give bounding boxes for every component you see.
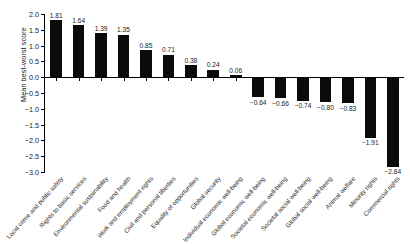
y-tick-mark: [41, 156, 45, 157]
y-tick-mark: [41, 46, 45, 47]
y-tick-mark: [41, 109, 45, 110]
bar-value-label: 0.71: [150, 46, 186, 53]
y-tick-label: −2.0: [13, 136, 39, 145]
y-tick-mark: [41, 61, 45, 62]
bar-value-label: 0.06: [218, 67, 254, 74]
x-tick-mark: [79, 78, 80, 81]
x-tick-mark: [393, 78, 394, 81]
bar: [73, 25, 85, 77]
plot-area: 1.811.641.391.350.850.710.380.240.06−0.6…: [45, 14, 404, 172]
y-tick-label: 1.5: [13, 26, 39, 35]
bar-value-label: 1.35: [106, 26, 142, 33]
x-tick-mark: [303, 78, 304, 81]
x-tick-mark: [281, 78, 282, 81]
x-tick-mark: [101, 78, 102, 81]
x-tick-mark: [213, 78, 214, 81]
y-tick-mark: [41, 140, 45, 141]
bar: [50, 20, 62, 77]
y-tick-label: −3.0: [13, 168, 39, 177]
y-tick-mark: [41, 93, 45, 94]
bar: [387, 77, 399, 167]
x-tick-mark: [191, 78, 192, 81]
x-tick-mark: [236, 78, 237, 81]
y-tick-label: 0.0: [13, 73, 39, 82]
y-tick-mark: [41, 30, 45, 31]
y-tick-label: −0.5: [13, 89, 39, 98]
bar: [365, 77, 377, 137]
y-tick-label: −1.5: [13, 121, 39, 130]
x-tick-mark: [325, 78, 326, 81]
bar-chart: Mean best-worst score 2.01.51.00.50.0−0.…: [0, 0, 410, 244]
y-tick-label: 1.0: [13, 42, 39, 51]
x-tick-mark: [258, 78, 259, 81]
x-tick-mark: [146, 78, 147, 81]
y-tick-mark: [41, 77, 45, 78]
bar: [140, 50, 152, 77]
y-tick-label: −2.5: [13, 152, 39, 161]
bar-value-label: −0.83: [330, 105, 366, 112]
y-tick-label: 2.0: [13, 10, 39, 19]
y-tick-mark: [41, 125, 45, 126]
y-axis-title: Mean best-worst score: [19, 0, 28, 140]
x-tick-mark: [168, 78, 169, 81]
x-tick-mark: [56, 78, 57, 81]
x-tick-mark: [124, 78, 125, 81]
bar-value-label: 1.64: [61, 17, 97, 24]
x-tick-mark: [370, 78, 371, 81]
y-tick-mark: [41, 172, 45, 173]
y-tick-label: −1.0: [13, 105, 39, 114]
bar: [230, 75, 242, 77]
bar-value-label: −2.84: [375, 168, 410, 175]
bar-value-label: −1.91: [352, 139, 388, 146]
x-tick-mark: [348, 78, 349, 81]
y-tick-mark: [41, 14, 45, 15]
y-tick-label: 0.5: [13, 57, 39, 66]
bar: [95, 33, 107, 77]
